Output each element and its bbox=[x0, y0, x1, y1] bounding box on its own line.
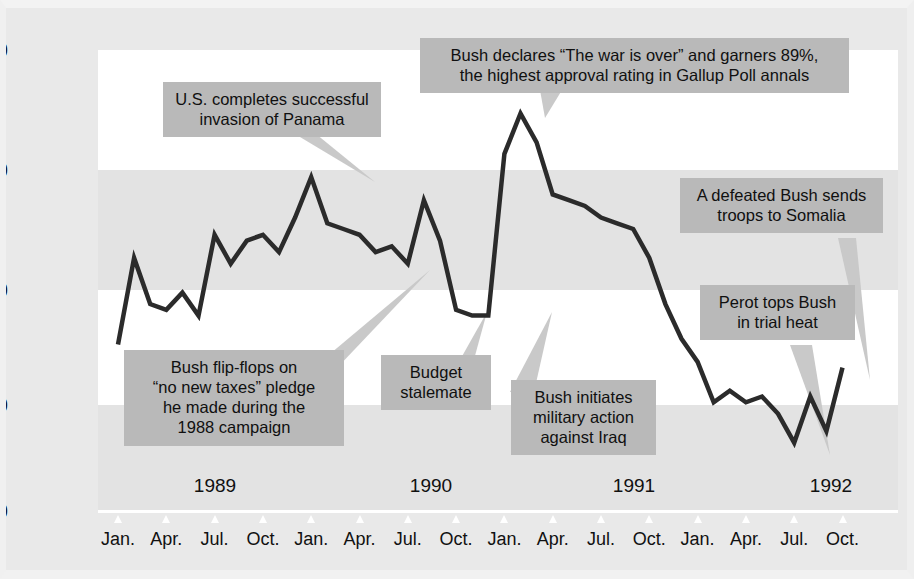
callout-iraq-line3: against Iraq bbox=[522, 427, 645, 447]
callout-flip-line3: he made during the bbox=[135, 397, 333, 417]
callout-flip-line4: 1988 campaign bbox=[135, 417, 333, 437]
callout-flip-line2: “no new taxes” pledge bbox=[135, 377, 333, 397]
callout-war-over-line1: Bush declares “The war is over” and garn… bbox=[431, 45, 838, 65]
callout-perot: Perot tops Bush in trial heat bbox=[700, 285, 855, 340]
callout-panama-line2: invasion of Panama bbox=[174, 109, 370, 129]
callout-panama-line1: U.S. completes successful bbox=[174, 89, 370, 109]
callout-war-over-line2: the highest approval rating in Gallup Po… bbox=[431, 65, 838, 85]
callout-perot-line1: Perot tops Bush bbox=[711, 292, 844, 312]
callout-somalia-line1: A defeated Bush sends bbox=[691, 185, 872, 205]
callout-budget-line1: Budget bbox=[392, 362, 480, 382]
callout-somalia-line2: troops to Somalia bbox=[691, 205, 872, 225]
callout-iraq-line2: military action bbox=[522, 407, 645, 427]
callout-budget-line2: stalemate bbox=[392, 382, 480, 402]
callout-war-over: Bush declares “The war is over” and garn… bbox=[420, 38, 849, 93]
callout-perot-line2: in trial heat bbox=[711, 312, 844, 332]
callout-budget: Budget stalemate bbox=[381, 355, 491, 410]
callout-somalia: A defeated Bush sends troops to Somalia bbox=[680, 178, 883, 233]
chart-figure: Percentage Responding “Approve” 100 80 6… bbox=[0, 0, 914, 579]
callout-panama: U.S. completes successful invasion of Pa… bbox=[163, 82, 381, 137]
callout-flip-flops: Bush flip-flops on “no new taxes” pledge… bbox=[124, 350, 344, 446]
callout-iraq: Bush initiates military action against I… bbox=[511, 380, 656, 455]
callout-flip-line1: Bush flip-flops on bbox=[135, 357, 333, 377]
callout-iraq-line1: Bush initiates bbox=[522, 387, 645, 407]
